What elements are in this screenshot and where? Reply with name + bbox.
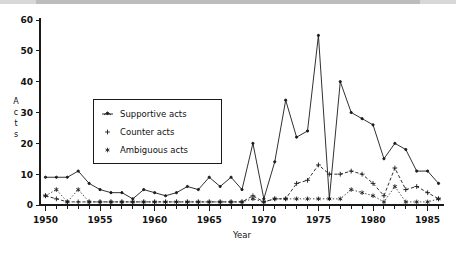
- data-point-dot: [77, 170, 79, 172]
- data-point-dot: [208, 176, 210, 178]
- y-axis-title-char: A: [13, 97, 19, 106]
- legend-label: Counter acts: [120, 127, 175, 137]
- data-point-dot: [88, 182, 90, 184]
- data-point-dot: [55, 176, 57, 178]
- data-point-plus: [414, 184, 419, 189]
- data-point-plus: [54, 196, 59, 201]
- data-point-asterisk: [415, 200, 419, 205]
- y-tick-label: 20: [20, 139, 33, 149]
- line-chart-svg: 0102030405060 19501955196019651970197519…: [0, 0, 456, 256]
- data-point-dot: [175, 192, 177, 194]
- data-point-dot: [317, 34, 319, 36]
- data-point-asterisk: [306, 197, 310, 202]
- x-tick-label: 1960: [142, 215, 167, 225]
- y-tick-label: 40: [20, 77, 33, 87]
- data-point-dot: [252, 142, 254, 144]
- y-tick-label: 10: [20, 170, 33, 180]
- data-point-dot: [186, 185, 188, 187]
- x-tick-label: 1980: [360, 215, 385, 225]
- data-point-plus: [403, 187, 408, 192]
- data-point-plus: [360, 172, 365, 177]
- data-point-dot: [383, 158, 385, 160]
- data-point-dot: [44, 176, 46, 178]
- data-point-dot: [295, 136, 297, 138]
- data-point-plus: [76, 200, 81, 205]
- data-point-dot: [339, 81, 341, 83]
- y-axis-title-char: c: [14, 108, 18, 117]
- data-point-plus: [392, 166, 397, 171]
- y-tick-label: 0: [27, 200, 33, 210]
- y-tick-label: 50: [20, 46, 33, 56]
- data-point-asterisk: [295, 197, 299, 202]
- data-point-plus: [316, 163, 321, 168]
- data-point-dot: [219, 185, 221, 187]
- data-point-dot: [416, 170, 418, 172]
- data-point-dot: [154, 192, 156, 194]
- data-point-dot: [405, 148, 407, 150]
- data-point-dot: [143, 188, 145, 190]
- y-axis-title-char: s: [14, 130, 18, 139]
- data-point-dot: [66, 176, 68, 178]
- data-point-asterisk: [338, 197, 342, 202]
- data-point-dot: [121, 192, 123, 194]
- x-tick-label: 1985: [415, 215, 440, 225]
- series-line-counter: [45, 165, 438, 202]
- legend-label: Supportive acts: [120, 109, 187, 119]
- chart-legend: Supportive actsCounter actsAmbiguous act…: [93, 99, 221, 163]
- data-point-asterisk: [382, 200, 386, 205]
- x-tick-label: 1970: [251, 215, 276, 225]
- x-axis: 19501955196019651970197519801985: [33, 205, 444, 225]
- data-point-dot: [164, 195, 166, 197]
- data-point-dot: [372, 124, 374, 126]
- data-point-asterisk: [54, 187, 58, 192]
- data-point-dot: [437, 182, 439, 184]
- data-point-plus: [338, 172, 343, 177]
- data-point-dot: [427, 170, 429, 172]
- data-point-dot: [350, 111, 352, 113]
- data-point-dot: [306, 130, 308, 132]
- data-point-dot: [241, 188, 243, 190]
- x-tick-label: 1955: [88, 215, 113, 225]
- data-point-dot: [99, 188, 101, 190]
- data-point-dot: [230, 176, 232, 178]
- chart-container: 0102030405060 19501955196019651970197519…: [0, 0, 456, 256]
- data-point-asterisk: [360, 190, 364, 195]
- data-point-asterisk: [426, 200, 430, 205]
- data-point-dot: [110, 192, 112, 194]
- x-tick-label: 1975: [306, 215, 331, 225]
- y-axis: 0102030405060: [20, 15, 40, 210]
- legend-label: Ambiguous acts: [120, 145, 189, 155]
- data-point-dot: [274, 161, 276, 163]
- x-axis-title: Year: [232, 230, 252, 240]
- data-point-plus: [349, 169, 354, 174]
- data-point-dot: [394, 142, 396, 144]
- y-tick-label: 60: [20, 15, 33, 25]
- x-tick-label: 1965: [197, 215, 222, 225]
- data-point-plus: [425, 190, 430, 195]
- data-point-dot: [361, 118, 363, 120]
- y-tick-label: 30: [20, 108, 33, 118]
- data-point-dot: [285, 99, 287, 101]
- x-tick-label: 1950: [33, 215, 58, 225]
- data-point-dot: [197, 188, 199, 190]
- y-axis-title-char: t: [14, 119, 17, 128]
